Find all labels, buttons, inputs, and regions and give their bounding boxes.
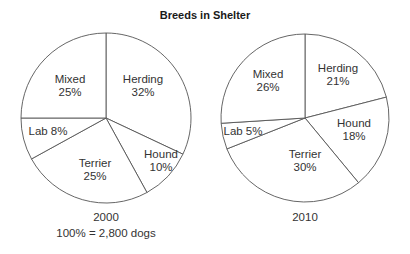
slice-label-terrier: Terrier (289, 148, 322, 160)
slice-percent-terrier: 25% (83, 170, 106, 182)
pie-2010-year-label: 2010 (205, 211, 405, 223)
pie-2010: Herding21%Hound18%Terrier30%Lab 5%Mixed2… (221, 34, 389, 202)
slice-label-terrier: Terrier (79, 157, 112, 169)
slice-label-hound: Hound (337, 117, 371, 129)
slice-percent-herding: 21% (326, 75, 349, 87)
slice-label-herding: Herding (318, 62, 358, 74)
slice-percent-hound: 18% (342, 130, 365, 142)
slice-label-mixed: Mixed (253, 68, 284, 80)
slice-label-herding: Herding (123, 73, 163, 85)
slice-percent-mixed: 26% (256, 81, 279, 93)
slice-label-hound: Hound (144, 148, 178, 160)
slice-label-lab: Lab 8% (28, 125, 67, 137)
slice-label-lab: Lab 5% (223, 125, 262, 137)
slice-percent-terrier: 30% (293, 161, 316, 173)
pie-2000: Herding32%Hound10%Terrier25%Lab 8%Mixed2… (21, 33, 191, 203)
slice-percent-herding: 32% (131, 86, 154, 98)
slice-percent-mixed: 25% (58, 86, 81, 98)
pie-2000-year-label: 2000 (6, 211, 206, 223)
pie-2000-total-note: 100% = 2,800 dogs (6, 227, 206, 239)
slice-label-mixed: Mixed (55, 73, 86, 85)
slice-percent-hound: 10% (149, 161, 172, 173)
